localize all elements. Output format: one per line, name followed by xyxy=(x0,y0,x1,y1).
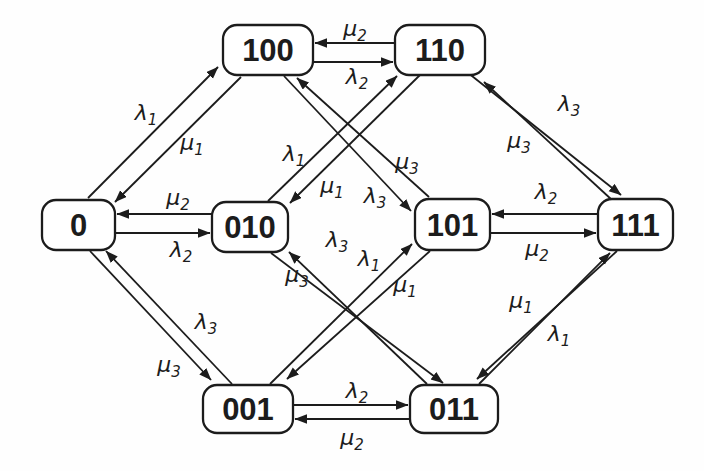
transition-arrow-101-to-100 xyxy=(297,78,429,197)
state-label-010: 010 xyxy=(224,210,276,245)
rate-symbol: μ xyxy=(506,128,521,153)
rate-subscript: 2 xyxy=(548,190,558,208)
rate-label-011-to-111: λ1 xyxy=(547,321,571,350)
rate-label-110-to-010: μ1 xyxy=(319,173,344,202)
rate-label-010-to-110: λ1 xyxy=(282,141,306,170)
rate-subscript: 1 xyxy=(371,257,381,275)
rate-symbol: λ xyxy=(134,100,148,125)
rate-symbol: μ xyxy=(342,16,357,41)
figure-canvas: 0100110010101111001011λ1μ1μ2λ2λ3μ3μ2λ2λ3… xyxy=(0,0,704,471)
transition-arrow-111-to-011 xyxy=(477,251,617,379)
rate-symbol: μ xyxy=(179,130,194,155)
rate-subscript: 3 xyxy=(521,139,531,157)
rate-symbol: μ xyxy=(319,173,334,198)
state-001: 001 xyxy=(203,385,293,433)
state-111: 111 xyxy=(598,199,673,250)
rate-subscript: 3 xyxy=(409,160,419,178)
rate-label-110-to-100: μ2 xyxy=(342,16,367,45)
rate-subscript: 1 xyxy=(407,283,417,301)
state-0: 0 xyxy=(42,200,115,250)
rate-label-111-to-101: λ2 xyxy=(534,179,558,208)
state-label-100: 100 xyxy=(242,33,294,68)
rate-symbol: λ xyxy=(282,141,296,166)
rate-symbol: μ xyxy=(284,262,299,287)
rate-label-011-to-001: μ2 xyxy=(339,425,364,454)
rate-symbol: λ xyxy=(357,246,371,271)
rate-symbol: λ xyxy=(534,179,548,204)
rate-subscript: 3 xyxy=(571,102,581,120)
rate-subscript: 3 xyxy=(299,273,309,291)
rate-symbol: μ xyxy=(524,236,539,261)
transition-arrow-111-to-110 xyxy=(484,82,612,200)
rate-symbol: μ xyxy=(392,272,407,297)
rate-symbol: λ xyxy=(547,321,561,346)
rate-subscript: 1 xyxy=(561,332,571,350)
rate-label-100-to-110: λ2 xyxy=(345,64,369,93)
state-label-011: 011 xyxy=(429,392,479,427)
rate-label-111-to-110: μ3 xyxy=(506,128,531,157)
rate-symbol: λ xyxy=(325,227,339,252)
rate-label-110-to-111: λ3 xyxy=(557,91,581,120)
state-100: 100 xyxy=(223,25,313,75)
rate-label-010-to-011: λ3 xyxy=(325,227,349,256)
rate-symbol: λ xyxy=(169,237,183,262)
rate-label-010-to-0: μ2 xyxy=(165,185,190,214)
transition-arrow-0-to-001 xyxy=(90,251,211,380)
rate-subscript: 2 xyxy=(354,436,364,454)
rate-subscript: 1 xyxy=(523,299,533,317)
rate-label-101-to-001: μ1 xyxy=(392,272,417,301)
rate-symbol: μ xyxy=(339,425,354,450)
rate-symbol: μ xyxy=(508,288,523,313)
rate-symbol: μ xyxy=(165,185,180,210)
rate-subscript: 2 xyxy=(183,248,193,266)
rate-symbol: μ xyxy=(394,149,409,174)
rate-label-111-to-011: μ1 xyxy=(508,288,533,317)
rate-symbol: λ xyxy=(557,91,571,116)
rate-label-100-to-101: λ3 xyxy=(363,183,387,212)
state-101: 101 xyxy=(415,199,490,250)
rate-subscript: 1 xyxy=(296,152,306,170)
rate-subscript: 1 xyxy=(148,111,158,129)
rate-label-001-to-0: μ3 xyxy=(156,352,181,381)
rate-label-0-to-010: λ2 xyxy=(169,237,193,266)
state-label-110: 110 xyxy=(415,33,465,68)
rate-labels-layer: λ1μ1μ2λ2λ3μ3μ2λ2λ3μ3λ1μ1λ3μ3λ1μ1λ2μ2λ3μ3… xyxy=(134,16,581,454)
rate-symbol: λ xyxy=(345,64,359,89)
rate-subscript: 2 xyxy=(539,247,549,265)
rate-symbol: λ xyxy=(194,309,208,334)
rate-label-001-to-011: λ2 xyxy=(345,378,369,407)
rate-subscript: 2 xyxy=(180,196,190,214)
transition-arrow-110-to-111 xyxy=(467,72,621,195)
state-label-101: 101 xyxy=(427,208,479,243)
rate-subscript: 3 xyxy=(339,238,349,256)
state-diagram-svg: 0100110010101111001011λ1μ1μ2λ2λ3μ3μ2λ2λ3… xyxy=(0,0,704,471)
rate-label-001-to-101: λ1 xyxy=(357,246,381,275)
rate-subscript: 1 xyxy=(334,184,344,202)
state-110: 110 xyxy=(395,25,485,75)
rate-symbol: λ xyxy=(363,183,377,208)
rate-subscript: 2 xyxy=(359,75,369,93)
rate-label-0-to-100: λ1 xyxy=(134,100,158,129)
transition-arrow-100-to-0 xyxy=(115,77,241,202)
state-label-001: 001 xyxy=(222,392,274,427)
transition-arrow-110-to-010 xyxy=(290,74,421,203)
state-010: 010 xyxy=(212,202,288,252)
rate-label-0-to-001: λ3 xyxy=(194,309,218,338)
rate-subscript: 2 xyxy=(357,27,367,45)
state-011: 011 xyxy=(410,385,498,433)
rate-label-101-to-100: μ3 xyxy=(394,149,419,178)
state-label-111: 111 xyxy=(611,208,659,243)
rate-subscript: 3 xyxy=(208,320,218,338)
rate-subscript: 3 xyxy=(377,194,387,212)
rate-subscript: 1 xyxy=(194,141,204,159)
rate-label-100-to-0: μ1 xyxy=(179,130,204,159)
state-label-0: 0 xyxy=(70,208,87,243)
transition-arrow-0-to-100 xyxy=(88,67,218,198)
rate-label-101-to-111: μ2 xyxy=(524,236,549,265)
rate-symbol: λ xyxy=(345,378,359,403)
rate-symbol: μ xyxy=(156,352,171,377)
rate-subscript: 2 xyxy=(359,389,369,407)
rate-subscript: 3 xyxy=(171,363,181,381)
